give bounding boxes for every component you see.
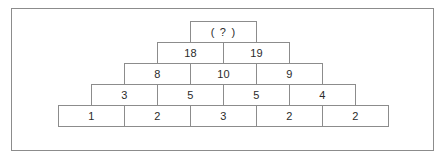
pyramid-row: 3554 bbox=[91, 84, 356, 106]
pyramid-cell: 5 bbox=[157, 84, 224, 106]
pyramid-cell: 5 bbox=[223, 84, 290, 106]
pyramid-cell: 19 bbox=[223, 42, 290, 64]
pyramid-cell: 3 bbox=[91, 84, 158, 106]
pyramid-cell: 1 bbox=[58, 105, 125, 127]
number-pyramid: ( ? )18198109355412322 bbox=[12, 9, 435, 152]
pyramid-cell: 2 bbox=[124, 105, 191, 127]
pyramid-cell-unknown[interactable]: ( ? ) bbox=[190, 21, 257, 43]
pyramid-cell: 4 bbox=[289, 84, 356, 106]
pyramid-cell: 8 bbox=[124, 63, 191, 85]
pyramid-cell: 3 bbox=[190, 105, 257, 127]
puzzle-frame: ( ? )18198109355412322 bbox=[11, 8, 434, 151]
pyramid-cell: 10 bbox=[190, 63, 257, 85]
pyramid-cell: 2 bbox=[256, 105, 323, 127]
pyramid-row: 1819 bbox=[157, 42, 290, 64]
pyramid-cell: 18 bbox=[157, 42, 224, 64]
pyramid-row: 12322 bbox=[58, 105, 389, 127]
pyramid-cell: 9 bbox=[256, 63, 323, 85]
pyramid-cell: 2 bbox=[322, 105, 389, 127]
pyramid-row: ( ? ) bbox=[190, 21, 257, 43]
pyramid-row: 8109 bbox=[124, 63, 323, 85]
